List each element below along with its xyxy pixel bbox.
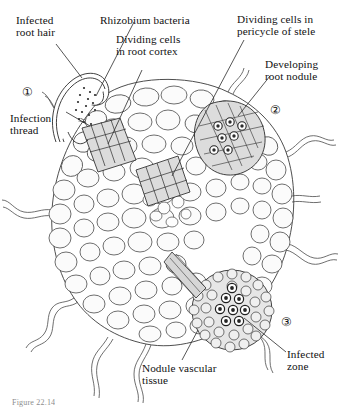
- cortex-cell: [128, 232, 152, 252]
- label-infected-root-hair: Infected root hair: [16, 14, 55, 39]
- cortex-cell: [122, 208, 146, 228]
- label-rhizobium-bacteria: Rhizobium bacteria: [100, 14, 190, 26]
- root-hair: [292, 201, 321, 202]
- label-line: Nodule vascular: [142, 362, 217, 374]
- cortex-cell: [128, 113, 152, 131]
- label-line: root hair: [16, 26, 55, 38]
- cortex-cell: [90, 267, 110, 285]
- root-hair: [26, 298, 74, 348]
- label-line: Dividing cells in: [237, 13, 313, 25]
- cortex-cell: [272, 184, 292, 204]
- cortex-cell: [107, 311, 129, 329]
- cortex-cell: [184, 231, 204, 249]
- cortex-cell: [133, 305, 155, 323]
- label-line: bacteria: [151, 14, 190, 26]
- stele-cell: [181, 209, 191, 219]
- label-line: pericycle of stele: [237, 25, 315, 37]
- label-infection-thread: Infection thread: [10, 112, 51, 137]
- cortex-cell: [270, 232, 290, 252]
- cortex-cell: [53, 180, 75, 200]
- root-hair: [288, 141, 336, 157]
- cortex-cell: [109, 287, 131, 305]
- cortex-cell: [157, 233, 179, 251]
- cortex-cell: [49, 204, 71, 224]
- cortex-cell: [266, 160, 286, 180]
- cortex-cell: [113, 261, 135, 279]
- cortex-cell: [97, 213, 119, 231]
- cortex-cell: [166, 322, 186, 338]
- cortex-cell: [206, 203, 226, 221]
- label-line: zone: [287, 360, 309, 372]
- cortex-cell: [77, 169, 99, 187]
- stage-marker-1: ①: [22, 86, 33, 98]
- cortex-cell: [55, 252, 77, 272]
- cortex-cell: [251, 225, 269, 243]
- cortex-cell: [135, 281, 157, 299]
- root-nodule-figure: Infected root hair Rhizobium bacteria Di…: [0, 0, 343, 409]
- cortex-cell: [142, 135, 166, 153]
- cortex-cell: [231, 174, 249, 190]
- label-infected-zone: Infected zone: [287, 348, 324, 373]
- cortex-cell: [65, 275, 87, 293]
- cortex-cell: [262, 255, 282, 273]
- root-hair: [288, 244, 338, 258]
- cortex-cell: [83, 295, 105, 313]
- cortex-cell: [80, 243, 100, 261]
- label-line: in root cortex: [116, 45, 178, 57]
- label-line: Infected: [16, 14, 53, 26]
- cortex-cell: [103, 237, 125, 255]
- cortex-cell: [253, 178, 271, 194]
- label-dividing-cells-cortex: Dividing cells in root cortex: [116, 33, 180, 58]
- cortex-cell: [161, 86, 187, 104]
- label-line: Dividing cells: [116, 33, 180, 45]
- label-line: root nodule: [265, 70, 317, 82]
- cortex-cell: [231, 198, 249, 214]
- label-line: thread: [10, 124, 39, 136]
- cortex-cell: [243, 247, 261, 265]
- stage-marker-3: ③: [281, 316, 292, 328]
- cortex-cell: [171, 137, 193, 155]
- label-nodule-vascular-tissue: Nodule vascular tissue: [142, 362, 217, 387]
- cortex-cell: [49, 228, 71, 248]
- label-line: Developing: [265, 58, 318, 70]
- root-hair: [31, 302, 78, 352]
- leader-infected-root-hair: [56, 44, 82, 78]
- label-italic-species: Rhizobium: [100, 14, 151, 26]
- cortex-cell: [139, 257, 161, 275]
- cortex-cell: [273, 208, 293, 228]
- root-hair: [97, 339, 113, 398]
- label-dividing-cells-pericycle: Dividing cells in pericycle of stele: [237, 13, 315, 38]
- cortex-cell: [74, 195, 94, 213]
- cortex-cell: [159, 301, 181, 319]
- cortex-cell: [156, 110, 180, 130]
- root-hair: [92, 337, 108, 396]
- cortex-cell: [253, 201, 271, 219]
- root-hair: [2, 200, 52, 212]
- label-developing-root-nodule: Developing root nodule: [265, 58, 318, 83]
- cortex-cell: [139, 326, 161, 342]
- label-line: Infection: [10, 112, 51, 124]
- stele-cell: [166, 217, 178, 227]
- developing-root-nodule-group: [194, 101, 265, 175]
- cortex-cell: [74, 219, 94, 237]
- label-line: Infected: [287, 348, 324, 360]
- stele-cell: [150, 211, 162, 221]
- stage-marker-2: ②: [270, 104, 281, 116]
- cortex-cell: [206, 179, 226, 197]
- cortex-cell: [97, 189, 119, 207]
- root-hair: [292, 195, 320, 196]
- figure-caption: Figure 22.14: [12, 398, 55, 409]
- label-line: tissue: [142, 374, 168, 386]
